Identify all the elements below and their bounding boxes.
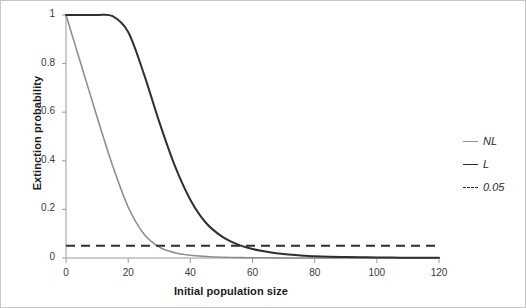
x-axis-title: Initial population size	[1, 285, 461, 297]
legend-label-threshold: 0.05	[483, 181, 504, 193]
x-tick-label-40: 40	[170, 267, 210, 278]
y-tick-label-0: 0	[21, 251, 55, 262]
x-tick-label-120: 120	[419, 267, 459, 278]
legend-item-threshold: 0.05	[463, 181, 504, 193]
x-tick-label-100: 100	[357, 267, 397, 278]
legend-line-icon-threshold	[463, 187, 478, 188]
y-tick-label-1: 1	[21, 8, 55, 19]
series-line-nl	[66, 15, 439, 258]
x-tick-label-60: 60	[233, 267, 273, 278]
figure-container: 1 0.8 0.6 0.4 0.2 0 0 20 40 60 80 100 12…	[0, 0, 526, 308]
legend-line-icon-l	[463, 164, 478, 165]
series-line-l	[66, 15, 439, 258]
y-tick-marks	[62, 15, 66, 258]
legend-item-l: L	[463, 158, 489, 170]
legend-label-l: L	[483, 158, 489, 170]
x-tick-label-80: 80	[295, 267, 335, 278]
y-axis-title: Extinction probability	[31, 33, 43, 233]
chart-plot-area	[1, 1, 526, 308]
x-tick-label-0: 0	[46, 267, 86, 278]
legend-line-icon-nl	[463, 141, 478, 142]
legend-label-nl: NL	[483, 135, 497, 147]
legend-item-nl: NL	[463, 135, 497, 147]
x-tick-label-20: 20	[108, 267, 148, 278]
